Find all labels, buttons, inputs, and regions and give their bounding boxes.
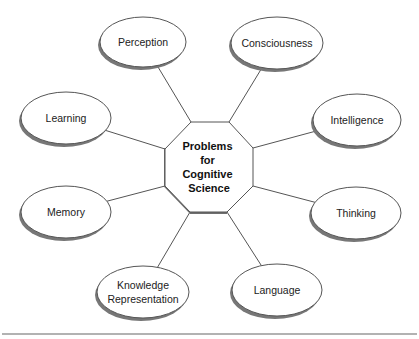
center-title-line-2: for [200, 154, 215, 166]
node-label-line: Intelligence [330, 114, 383, 126]
node-label: Thinking [336, 207, 376, 219]
center-title-line-1: Problems [182, 140, 232, 152]
node-label-line: Learning [46, 112, 87, 124]
node-label-line: Thinking [336, 207, 376, 219]
node-label-line: Representation [107, 293, 178, 305]
node-label: Perception [118, 36, 168, 48]
connector-knowledge-representation [158, 212, 191, 267]
octagon-shape [165, 122, 253, 212]
node-label: Learning [46, 112, 87, 124]
node-intelligence: Intelligence [311, 94, 401, 149]
connector-language [227, 212, 261, 266]
node-label: Consciousness [241, 37, 312, 49]
center-title-line-3: Cognitive [182, 168, 232, 180]
node-ellipse [97, 266, 189, 318]
node-label: Language [254, 284, 301, 296]
connector-perception [157, 66, 191, 122]
node-language: Language [230, 264, 322, 319]
connector-learning [106, 130, 165, 149]
center-title-line-4: Science [188, 182, 230, 194]
node-label-line: Language [254, 284, 301, 296]
connector-memory [107, 186, 165, 201]
node-learning: Learning [19, 92, 111, 147]
node-thinking: Thinking [309, 187, 401, 242]
center-octagon: Problems for Cognitive Science [165, 122, 253, 212]
node-label-line: Perception [118, 36, 168, 48]
cognitive-science-diagram: PerceptionConsciousnessLearningIntellige… [0, 0, 419, 339]
connector-intelligence [253, 131, 317, 148]
node-label-line: Memory [47, 206, 86, 218]
node-perception: Perception [98, 17, 186, 70]
connector-consciousness [229, 68, 262, 122]
node-knowledge-representation: KnowledgeRepresentation [95, 266, 189, 321]
connector-thinking [253, 186, 315, 202]
node-memory: Memory [19, 186, 111, 241]
node-label-line: Knowledge [117, 279, 169, 291]
node-label: Memory [47, 206, 86, 218]
node-label: Intelligence [330, 114, 383, 126]
node-consciousness: Consciousness [229, 17, 323, 72]
node-label-line: Consciousness [241, 37, 312, 49]
